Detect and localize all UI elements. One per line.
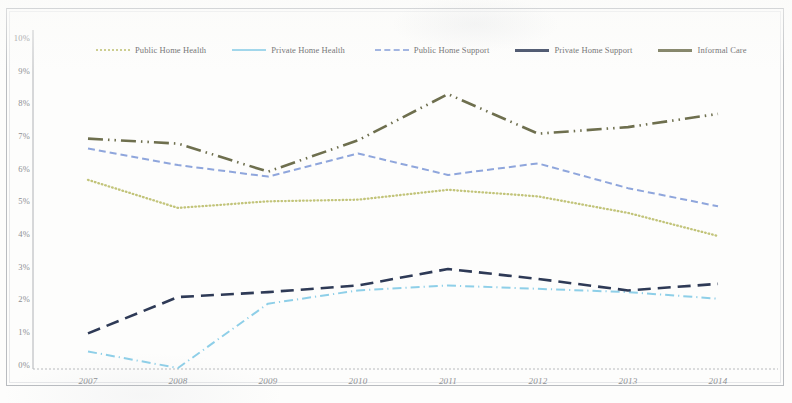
series-line-public-home-health [88,180,718,236]
series-line-private-home-support [88,269,718,333]
chart-figure: 10% 9% 8% 7% 6% 5% 4% 3% 2% 1% 0% 2007 2… [0,0,792,403]
series-lines [88,94,718,368]
plot-area [0,0,792,403]
series-line-informal-care [88,94,718,172]
axis-lines [33,30,778,369]
series-line-public-home-support [88,149,718,207]
